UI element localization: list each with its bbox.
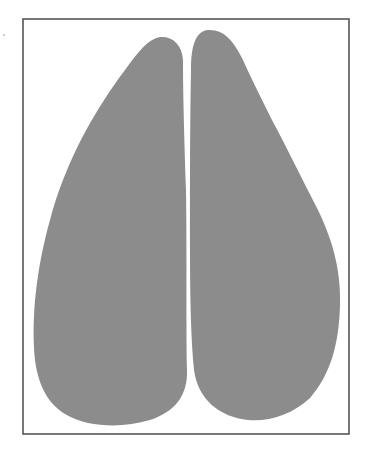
stray-mark — [3, 34, 5, 36]
footprint-illustration — [0, 0, 368, 449]
figure-canvas — [0, 0, 368, 449]
